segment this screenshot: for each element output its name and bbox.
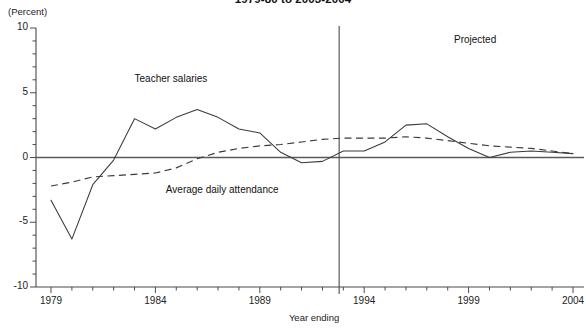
- series-line-teacher-salaries: [51, 110, 573, 240]
- x-tick-label: 2004: [551, 295, 586, 306]
- y-tick-label: 5: [2, 86, 28, 97]
- x-tick-label: 1984: [133, 295, 177, 306]
- y-axis-unit-label: (Percent): [8, 6, 47, 17]
- chart-figure: 1979-80 to 2003-2004 (Percent) 1050-5-10…: [0, 0, 586, 330]
- y-tick-label: -10: [2, 280, 28, 291]
- series-label-teacher-salaries: Teacher salaries: [135, 73, 208, 84]
- y-tick-label: 0: [2, 151, 28, 162]
- plot-canvas: [0, 0, 586, 330]
- series-line-average-daily-attendance: [51, 137, 573, 186]
- y-tick-label: 10: [2, 21, 28, 32]
- x-tick-label: 1999: [447, 295, 491, 306]
- x-tick-label: 1979: [29, 295, 73, 306]
- series-label-average-daily-attendance: Average daily attendance: [166, 184, 279, 195]
- chart-title: 1979-80 to 2003-2004: [0, 0, 586, 5]
- x-axis-caption: Year ending: [254, 312, 374, 323]
- annotation-projected: Projected: [454, 34, 496, 45]
- x-tick-label: 1994: [342, 295, 386, 306]
- y-tick-label: -5: [2, 215, 28, 226]
- x-tick-label: 1989: [238, 295, 282, 306]
